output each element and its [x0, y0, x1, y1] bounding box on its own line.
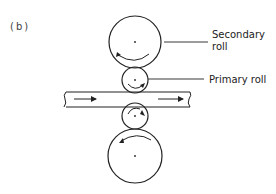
- secondary-roll-label-line2: roll: [212, 41, 228, 52]
- rotation-arrow-icon: [121, 136, 151, 141]
- roll-center-dot: [134, 79, 136, 81]
- roll-center-dot: [134, 41, 136, 43]
- roll-center-dot: [134, 115, 136, 117]
- secondary-roll-label-line1: Secondary: [212, 29, 265, 40]
- rotation-arrow-icon: [118, 54, 149, 60]
- primary-roll-label: Primary roll: [209, 74, 266, 85]
- rotation-arrow-icon: [128, 84, 143, 88]
- upper-secondary-roll: [109, 16, 161, 68]
- upper-primary-roll: [122, 67, 148, 93]
- rotation-arrow-icon: [128, 108, 140, 114]
- lower-secondary-roll: [108, 129, 162, 183]
- roll-center-dot: [134, 155, 136, 157]
